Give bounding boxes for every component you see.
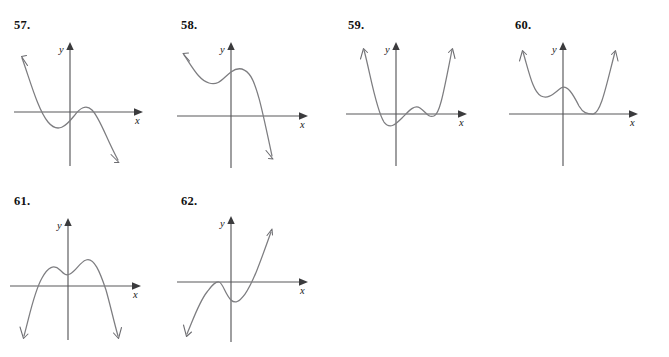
problem-number-62: 62. xyxy=(181,194,197,209)
y-axis-arrow-icon xyxy=(559,42,566,50)
curve-path xyxy=(184,55,272,156)
curve-left-arrow-icon xyxy=(183,53,190,61)
problem-61: 61. y x xyxy=(0,176,165,354)
problem-number-61: 61. xyxy=(14,194,30,209)
y-axis-label: y xyxy=(551,44,557,55)
graph-57-svg: y x xyxy=(6,34,161,174)
graph-62-svg: y x xyxy=(173,210,328,350)
problem-62: 62. y x xyxy=(167,176,332,354)
y-axis-label: y xyxy=(219,218,225,229)
x-axis-label: x xyxy=(134,115,140,126)
y-axis-arrow-icon xyxy=(392,42,399,50)
graph-61-svg: y x xyxy=(6,210,161,350)
x-axis-label: x xyxy=(132,289,138,300)
y-axis-arrow-icon xyxy=(227,216,234,224)
problem-58: 58. y x xyxy=(167,0,332,178)
curve-path xyxy=(187,232,271,334)
problem-number-59: 59. xyxy=(348,18,364,33)
graph-60: y x xyxy=(507,34,662,174)
problem-60: 60. y x xyxy=(501,0,666,178)
curve-path xyxy=(523,52,615,114)
y-axis-arrow-icon xyxy=(227,42,234,50)
problem-number-58: 58. xyxy=(181,18,197,33)
graph-57: y x xyxy=(6,34,161,174)
y-axis-label: y xyxy=(58,44,64,55)
graph-59-svg: y x xyxy=(340,34,495,174)
curve-left-arrow-icon xyxy=(20,327,28,339)
y-axis-arrow-icon xyxy=(64,218,71,226)
y-axis-arrow-icon xyxy=(66,42,73,50)
graph-59: y x xyxy=(340,34,495,174)
x-axis-label: x xyxy=(629,117,635,128)
x-axis-label: x xyxy=(458,117,464,128)
y-axis-label: y xyxy=(56,220,62,231)
problem-59: 59. y x xyxy=(334,0,499,178)
graph-61: y x xyxy=(6,210,161,350)
graph-58: y x xyxy=(173,34,328,174)
curve-path xyxy=(24,260,118,336)
graph-58-svg: y x xyxy=(173,34,328,174)
graph-62: y x xyxy=(173,210,328,350)
y-axis-label: y xyxy=(219,44,225,55)
graph-60-svg: y x xyxy=(507,34,662,174)
problem-57: 57. y x xyxy=(0,0,165,178)
x-axis-label: x xyxy=(299,285,305,296)
worksheet-page: 57. y x 58. xyxy=(0,0,669,357)
x-axis-label: x xyxy=(299,119,305,130)
problem-number-60: 60. xyxy=(515,18,531,33)
problem-number-57: 57. xyxy=(14,18,30,33)
y-axis-label: y xyxy=(384,44,390,55)
